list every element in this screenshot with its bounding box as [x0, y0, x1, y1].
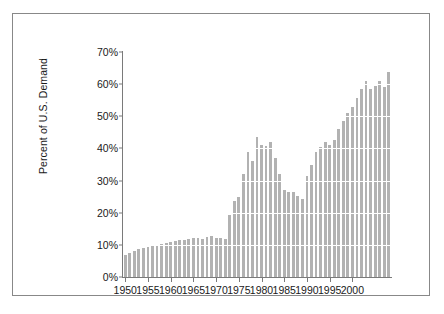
bar-1985: [283, 190, 286, 277]
chart-figure: Percent of U.S. Demand 0%10%20%30%40%50%…: [0, 0, 444, 314]
bar-1988: [296, 196, 299, 277]
bar-1978: [251, 161, 254, 277]
bar-1996: [333, 140, 336, 277]
bar-1981: [265, 146, 268, 277]
bar-undefined: [387, 72, 390, 277]
x-axis-tick-label: 1965: [182, 284, 205, 296]
bar-1954: [142, 248, 145, 277]
bar-1977: [247, 152, 250, 277]
x-axis-tick-mark: [171, 277, 172, 282]
gridline: [123, 52, 391, 53]
bar-1982: [269, 142, 272, 277]
bar-1991: [310, 165, 313, 277]
x-axis-tick-mark: [193, 277, 194, 282]
bar-1989: [301, 199, 304, 277]
gridline: [123, 84, 391, 85]
bar-1952: [133, 251, 136, 277]
figure-frame: Percent of U.S. Demand 0%10%20%30%40%50%…: [12, 13, 430, 296]
bar-1976: [242, 174, 245, 278]
bar-1986: [287, 192, 290, 278]
x-axis-tick-mark: [262, 277, 263, 282]
bar-1987: [292, 192, 295, 278]
bar-1984: [278, 174, 281, 278]
x-axis-tick-label: 1955: [136, 284, 159, 296]
x-axis-tick-mark: [148, 277, 149, 282]
bar-1983: [274, 158, 277, 277]
bar-1975: [237, 197, 240, 277]
bar-1999: [346, 113, 349, 277]
x-axis-tick-mark: [239, 277, 240, 282]
bar-1992: [315, 152, 318, 277]
bar-1995: [328, 145, 331, 277]
bar-1973: [228, 215, 231, 277]
bar-1994: [324, 142, 327, 277]
bar-1957: [156, 246, 159, 277]
bar-1955: [147, 247, 150, 277]
bar-2001: [356, 98, 359, 277]
bar-1960: [169, 242, 172, 277]
x-axis-tick-label: 1960: [159, 284, 182, 296]
bar-1998: [342, 121, 345, 277]
bar-2000: [351, 107, 354, 277]
gridline: [123, 148, 391, 149]
y-axis-tick-mark: [119, 277, 123, 278]
bar-1990: [306, 176, 309, 277]
bar-1969: [210, 236, 213, 277]
bar-1968: [206, 237, 209, 277]
x-axis-tick-label: 1990: [295, 284, 318, 296]
bar-1962: [178, 240, 181, 277]
bar-1956: [151, 246, 154, 277]
x-axis-tick-label: 1970: [204, 284, 227, 296]
x-axis-tick-label: 1995: [318, 284, 341, 296]
gridline: [123, 116, 391, 117]
x-axis-tick-label: 1975: [227, 284, 250, 296]
x-axis-tick-label: 1950: [114, 284, 137, 296]
x-axis-tick-mark: [352, 277, 353, 282]
bar-1951: [128, 253, 131, 277]
bar-1979: [256, 137, 259, 277]
gridline: [123, 245, 391, 246]
bar-1953: [137, 249, 140, 277]
x-axis-tick-mark: [125, 277, 126, 282]
bar-2003: [365, 81, 368, 277]
bar-1959: [165, 243, 168, 277]
gridline: [123, 181, 391, 182]
bar-1950: [124, 255, 127, 277]
y-axis-title: Percent of U.S. Demand: [37, 41, 49, 191]
x-axis-tick-label: 1980: [250, 284, 273, 296]
gridline: [123, 213, 391, 214]
bar-1997: [337, 129, 340, 277]
bar-1980: [260, 145, 263, 277]
bar-undefined: [378, 81, 381, 277]
x-axis-tick-label: 1985: [273, 284, 296, 296]
bar-1961: [174, 241, 177, 277]
x-axis-tick-mark: [216, 277, 217, 282]
x-axis-tick-mark: [330, 277, 331, 282]
x-axis-tick-mark: [307, 277, 308, 282]
x-axis-tick-mark: [284, 277, 285, 282]
plot-area: 0%10%20%30%40%50%60%70%: [123, 52, 391, 277]
bar-1958: [160, 244, 163, 277]
x-axis-tick-label: 2000: [341, 284, 364, 296]
